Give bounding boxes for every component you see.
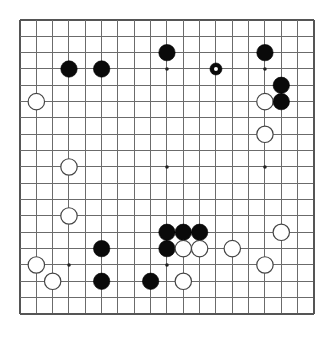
star-point	[263, 67, 267, 71]
black-stone[interactable]	[93, 273, 109, 289]
black-stone[interactable]	[273, 93, 289, 109]
black-stone[interactable]	[93, 61, 109, 77]
black-stone[interactable]	[175, 224, 191, 240]
white-stone[interactable]	[224, 240, 240, 256]
black-stone[interactable]	[159, 224, 175, 240]
white-stone[interactable]	[44, 273, 60, 289]
white-stone[interactable]	[257, 126, 273, 142]
white-stone[interactable]	[61, 208, 77, 224]
white-stone[interactable]	[61, 159, 77, 175]
black-stone[interactable]	[142, 273, 158, 289]
stone-marker-dot	[214, 67, 218, 71]
white-stone[interactable]	[257, 257, 273, 273]
black-stone[interactable]	[273, 77, 289, 93]
star-point	[263, 165, 267, 169]
black-stone[interactable]	[159, 44, 175, 60]
white-stone[interactable]	[175, 240, 191, 256]
black-stone[interactable]	[257, 44, 273, 60]
white-stone[interactable]	[175, 273, 191, 289]
black-stone[interactable]	[61, 61, 77, 77]
star-point	[165, 263, 169, 267]
white-stone[interactable]	[273, 224, 289, 240]
white-stone[interactable]	[257, 93, 273, 109]
star-point	[165, 165, 169, 169]
black-stone[interactable]	[93, 240, 109, 256]
star-point	[165, 67, 169, 71]
black-stone[interactable]	[191, 224, 207, 240]
white-stone[interactable]	[28, 93, 44, 109]
go-board-diagram	[0, 0, 334, 341]
white-stone[interactable]	[28, 257, 44, 273]
black-stone[interactable]	[159, 240, 175, 256]
star-point	[67, 263, 71, 267]
white-stone[interactable]	[191, 240, 207, 256]
go-board-svg[interactable]	[0, 0, 334, 341]
